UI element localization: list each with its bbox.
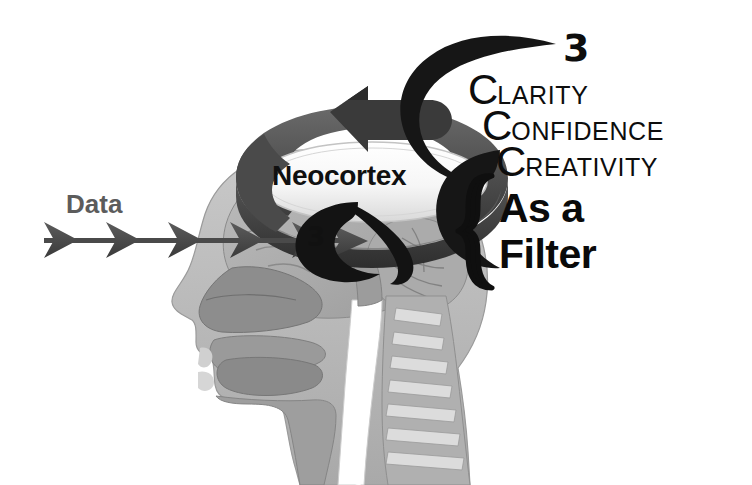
filter-line-2: Filter [499,231,596,277]
filter-line-1: As a [499,185,596,231]
creativity-initial: C [496,138,525,185]
three-filter-label: 3 [307,222,325,252]
creativity-label: REATIVITY [525,153,658,181]
neocortex-label: Neocortex [272,160,406,192]
three-count-label: 3 [563,26,589,70]
as-a-filter-label: As a Filter [499,185,596,277]
curly-brace-icon [0,0,752,485]
list-item: CREATIVITY [496,138,658,186]
diagram-canvas: Data Neocortex 3 3 CLARITY CONFIDENCE CR… [0,0,752,485]
data-label: Data [66,189,122,220]
